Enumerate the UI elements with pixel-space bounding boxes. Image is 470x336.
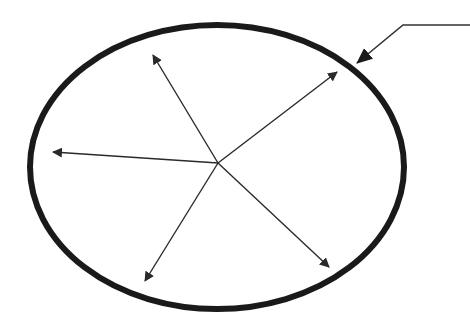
radial-arrows-group bbox=[53, 55, 337, 281]
radial-arrow-upper-left bbox=[153, 55, 218, 163]
boundary-ellipse bbox=[30, 25, 404, 309]
radial-arrow-left bbox=[53, 152, 218, 163]
radial-arrow-upper-right bbox=[218, 72, 337, 163]
pointer-arrow bbox=[357, 25, 470, 63]
radial-arrow-lower-left bbox=[145, 163, 218, 281]
radial-arrow-lower-right bbox=[218, 163, 329, 267]
ellipse-diagram bbox=[0, 0, 470, 336]
